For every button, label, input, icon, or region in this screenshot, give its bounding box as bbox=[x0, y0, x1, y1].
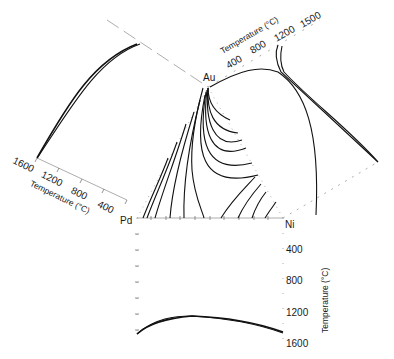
binary-panel-pd-au: 1600 1200 800 400 Temperature (°C) bbox=[11, 20, 208, 216]
pd-ni-tick-1200: 1200 bbox=[286, 307, 309, 318]
pd-au-tick-1600: 1600 bbox=[11, 155, 36, 175]
au-ni-tick-400: 400 bbox=[224, 53, 244, 71]
pd-ni-left-ticks bbox=[135, 234, 139, 330]
pd-ni-axis-title: Temperature (°C) bbox=[320, 268, 330, 333]
isotherms-left-group bbox=[143, 88, 204, 218]
pd-au-tick-400: 400 bbox=[96, 198, 116, 215]
pd-ni-tick-800: 800 bbox=[286, 275, 303, 286]
au-ni-tick-1200: 1200 bbox=[272, 23, 297, 44]
au-ni-tick-1500: 1500 bbox=[298, 9, 323, 30]
vertex-label-pd: Pd bbox=[120, 215, 132, 226]
isotherms-right-group bbox=[200, 88, 276, 218]
pd-ni-tick-400: 400 bbox=[286, 244, 303, 255]
binary-panel-au-ni: 400 800 1200 1500 Temperature (°C) bbox=[208, 9, 378, 218]
vertex-label-ni: Ni bbox=[285, 219, 294, 230]
binary-panel-pd-ni: 400 800 1200 1600 Temperature (°C) bbox=[135, 218, 330, 349]
vertex-label-au: Au bbox=[203, 72, 215, 83]
au-ni-edge bbox=[208, 87, 283, 218]
pd-ni-tick-1600: 1600 bbox=[286, 338, 309, 349]
au-ni-tick-800: 800 bbox=[248, 38, 268, 56]
ternary-phase-diagram: Au Pd Ni bbox=[0, 0, 394, 359]
